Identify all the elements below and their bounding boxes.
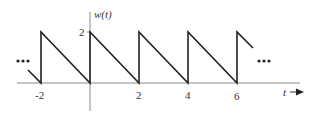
x-axis-label: t [283, 86, 287, 98]
sawtooth-waveform [28, 32, 253, 83]
left-continuation-dots [16, 59, 29, 62]
y-axis-label: w(t) [94, 8, 112, 21]
x-tick-label-6: 6 [234, 90, 240, 102]
right-continuation-dots [257, 59, 270, 62]
sawtooth-chart: w(t) 2 -2 2 4 6 t [0, 0, 316, 113]
x-axis-arrow-icon [290, 89, 304, 96]
x-tick-label-neg2: -2 [35, 89, 44, 101]
y-tick-label-2: 2 [79, 26, 85, 38]
x-tick-label-2: 2 [136, 89, 142, 101]
x-tick-label-4: 4 [185, 89, 191, 101]
